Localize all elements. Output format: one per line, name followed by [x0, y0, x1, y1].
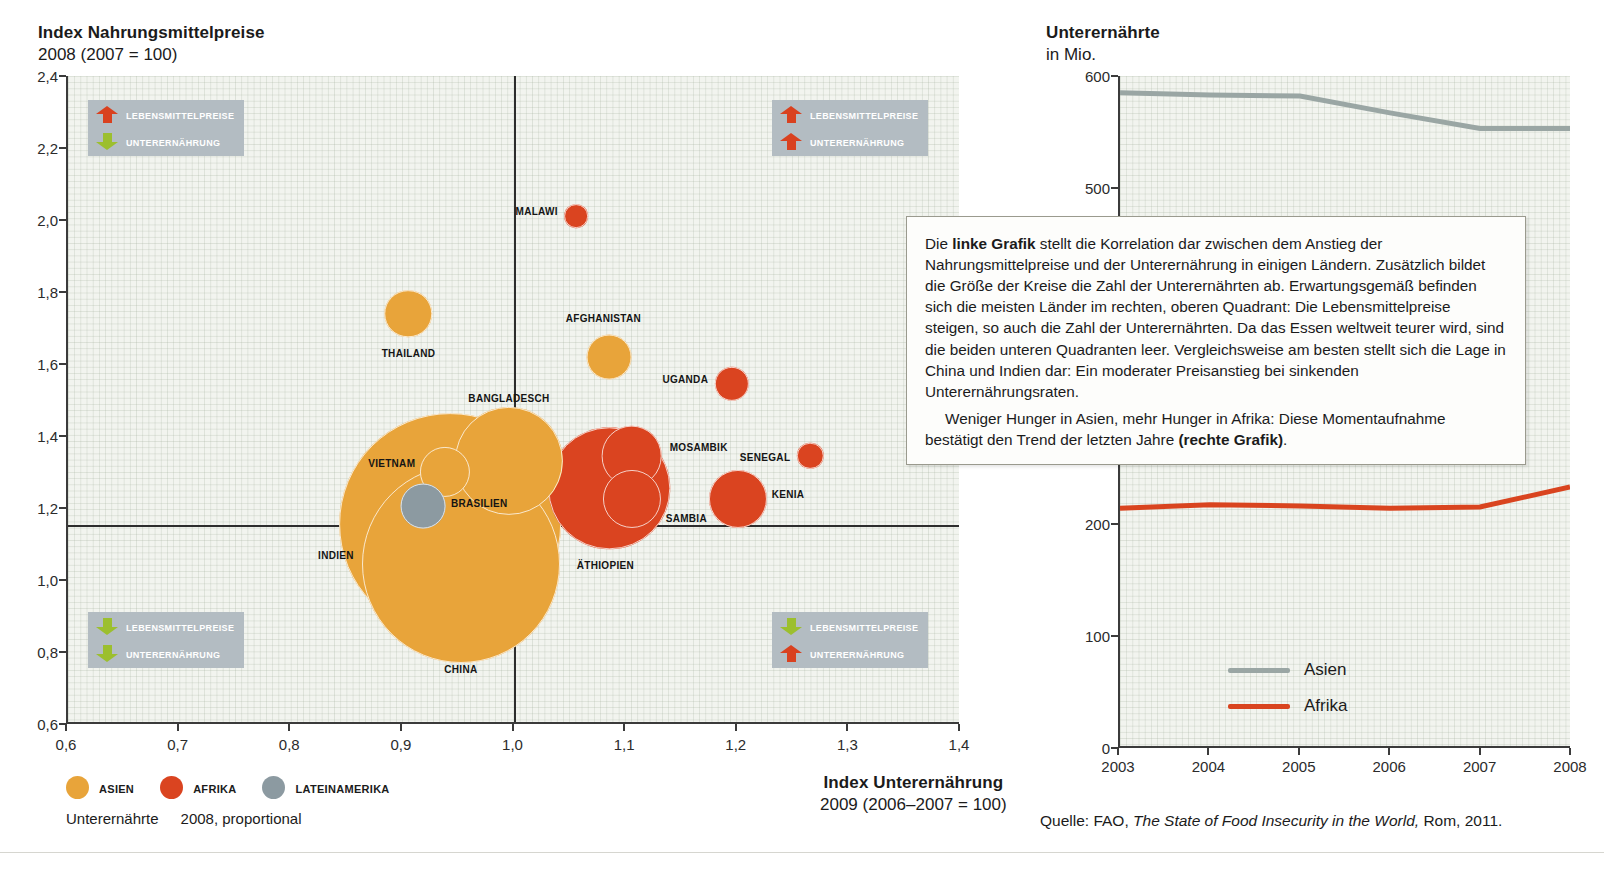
arrow-down-icon: [94, 618, 120, 635]
left-x-tick-mark: [177, 724, 179, 731]
left-y-tick-mark: [59, 291, 66, 293]
left-x-tick-label: 0,9: [390, 736, 411, 753]
callout-p2-c: .: [1283, 431, 1287, 448]
right-chart-subtitle: in Mio.: [1046, 44, 1160, 66]
callout-p2-bold: (rechte Grafik): [1178, 431, 1283, 448]
legend-swatch-icon: [160, 776, 183, 799]
bubble-outline: [603, 470, 661, 528]
callout-paragraph-2: Weniger Hunger in Asien, mehr Hunger in …: [925, 408, 1507, 450]
right-x-tick-label: 2005: [1282, 758, 1315, 775]
quadrant-box-bottom-left: LebensmittelpreiseUnterernährung: [88, 612, 244, 668]
right-legend-line-icon: [1228, 668, 1290, 673]
bubble-outline: [564, 205, 588, 229]
quadrant-text-group: LebensmittelpreiseUnterernährung: [810, 618, 918, 662]
quadrant-box-top-right: LebensmittelpreiseUnterernährung: [772, 100, 928, 156]
right-legend-item-afrika: Afrika: [1228, 696, 1347, 716]
quadrant-label: Unterernährung: [126, 645, 234, 662]
right-x-tick-label: 2004: [1192, 758, 1225, 775]
bubble-label-mosambik: Mosambik: [670, 438, 728, 454]
left-x-tick-label: 1,1: [614, 736, 635, 753]
region-legend: AsienAfrikaLateinamerika: [66, 776, 390, 799]
bubble-label-china: China: [444, 660, 477, 676]
callout-p1-a: Die: [925, 235, 952, 252]
left-chart-title: Index Nahrungsmittelpreise: [38, 22, 265, 44]
left-x-tick-mark: [623, 724, 625, 731]
left-y-tick-label: 0,8: [18, 644, 58, 661]
arrow-up-icon: [778, 645, 804, 662]
legend-item-asien: Asien: [66, 776, 134, 799]
right-y-tick-label: 200: [1066, 516, 1110, 533]
quadrant-text-group: LebensmittelpreiseUnterernährung: [810, 106, 918, 150]
callout-p1-c: stellt die Korrelation dar zwischen dem …: [925, 235, 1506, 400]
bubble-label-thailand: Thailand: [382, 344, 436, 360]
quadrant-label: Unterernährung: [810, 645, 918, 662]
bubble-label-indien: Indien: [318, 546, 354, 562]
left-x-tick-mark: [400, 724, 402, 731]
arrow-down-icon: [94, 645, 120, 662]
left-y-tick-mark: [59, 579, 66, 581]
left-x-tick-label: 0,7: [167, 736, 188, 753]
source-title: The State of Food Insecurity in the Worl…: [1133, 812, 1419, 829]
bubble-outline: [401, 484, 446, 529]
source-note: Quelle: FAO, The State of Food Insecurit…: [1040, 812, 1502, 830]
right-y-tick-label: 600: [1066, 68, 1110, 85]
left-y-tick-mark: [59, 363, 66, 365]
left-x-tick-mark: [958, 724, 960, 731]
bubble-size-note-value: 2008, proportional: [181, 810, 302, 827]
right-y-tick-label: 500: [1066, 180, 1110, 197]
legend-label: Afrika: [193, 779, 236, 796]
bubble-label-uganda: Uganda: [662, 370, 708, 386]
left-x-axis-title: Index Unterernährung: [820, 772, 1007, 794]
right-legend-line-icon: [1228, 704, 1290, 709]
left-y-tick-label: 1,6: [18, 356, 58, 373]
left-y-tick-label: 2,0: [18, 212, 58, 229]
left-chart-header: Index Nahrungsmittelpreise 2008 (2007 = …: [38, 22, 265, 66]
left-y-tick-mark: [59, 507, 66, 509]
bubble-label-bangladesch: Bangladesch: [468, 389, 549, 405]
right-x-tick-mark: [1298, 748, 1300, 755]
quadrant-arrow-group: [778, 106, 804, 150]
left-x-tick-label: 1,3: [837, 736, 858, 753]
right-x-tick-mark: [1117, 748, 1119, 755]
bubble-size-note-label: Unterernährte: [66, 810, 159, 827]
left-x-tick-label: 0,8: [279, 736, 300, 753]
quadrant-label: Lebensmittelpreise: [126, 106, 234, 123]
quadrant-label: Lebensmittelpreise: [126, 618, 234, 635]
left-y-tick-label: 2,4: [18, 68, 58, 85]
legend-item-afrika: Afrika: [160, 776, 236, 799]
left-y-tick-label: 2,2: [18, 140, 58, 157]
left-y-tick-label: 1,0: [18, 572, 58, 589]
right-x-tick-mark: [1479, 748, 1481, 755]
left-x-axis-subtitle: 2009 (2006–2007 = 100): [820, 794, 1007, 816]
left-x-tick-mark: [735, 724, 737, 731]
bubble-outline: [709, 470, 767, 528]
bubble-outline: [385, 290, 433, 338]
right-x-tick-label: 2006: [1373, 758, 1406, 775]
bubble-label-brasilien: Brasilien: [451, 494, 508, 510]
left-x-tick-label: 0,6: [56, 736, 77, 753]
right-y-tick-label: 0: [1066, 740, 1110, 757]
legend-swatch-icon: [66, 776, 89, 799]
left-x-tick-mark: [288, 724, 290, 731]
right-x-tick-mark: [1569, 748, 1571, 755]
bubble-outline: [715, 367, 749, 401]
right-x-tick-label: 2007: [1463, 758, 1496, 775]
bubble-label-kenia: Kenia: [772, 485, 805, 501]
left-y-tick-mark: [59, 219, 66, 221]
infographic-page: Index Nahrungsmittelpreise 2008 (2007 = …: [0, 0, 1604, 871]
left-y-tick-label: 1,4: [18, 428, 58, 445]
right-chart-header: Unterernährte in Mio.: [1046, 22, 1160, 66]
legend-label: Lateinamerika: [295, 779, 389, 796]
right-y-tick-mark: [1111, 635, 1118, 637]
bubble-outline: [797, 443, 823, 469]
bottom-divider: [0, 852, 1604, 853]
quadrant-arrow-group: [94, 618, 120, 662]
left-x-tick-mark: [512, 724, 514, 731]
left-x-tick-label: 1,2: [725, 736, 746, 753]
left-x-tick-mark: [846, 724, 848, 731]
right-legend-label: Afrika: [1304, 696, 1347, 716]
right-legend-label: Asien: [1304, 660, 1347, 680]
bubble-size-note: Unterernährte 2008, proportional: [66, 810, 302, 827]
left-y-tick-label: 0,6: [18, 716, 58, 733]
legend-swatch-icon: [262, 776, 285, 799]
